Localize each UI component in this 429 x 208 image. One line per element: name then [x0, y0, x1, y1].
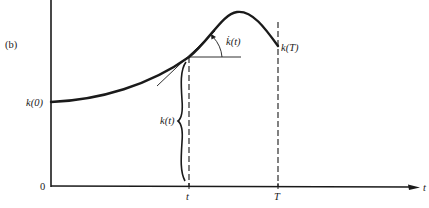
k0-label: k(0) [26, 97, 43, 109]
tick-label-T: T [274, 191, 281, 202]
height-label: k(t) [160, 115, 175, 127]
origin-label: 0 [40, 181, 45, 192]
tangent-line [157, 31, 215, 86]
capital-path-curve [51, 12, 278, 102]
slope-label: k̇(t) [226, 36, 241, 48]
slope-angle-arrowhead-icon [211, 34, 216, 40]
x-axis-arrowhead-icon [408, 185, 420, 191]
x-axis [51, 186, 412, 187]
diagram-canvas: (b) 0 k(0) t t T k̇(t) k(t) k(T) [0, 0, 429, 208]
slope-angle-arc [213, 37, 222, 57]
height-brace [178, 62, 186, 181]
kT-label: k(T) [281, 42, 299, 54]
tick-label-t: t [186, 191, 190, 202]
panel-label: (b) [5, 39, 18, 51]
x-axis-label: t [423, 182, 427, 193]
